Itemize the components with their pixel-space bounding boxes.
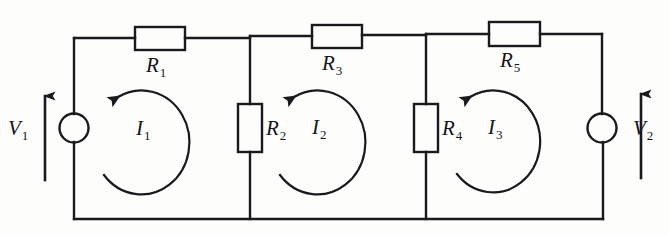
source-label-V2: V2 <box>633 118 653 142</box>
resistor-label-R2: R2 <box>266 118 286 142</box>
resistor-body-R3 <box>312 25 362 48</box>
resistor-label-R5: R5 <box>500 50 520 74</box>
resistor-body-R5 <box>489 22 540 46</box>
resistor-body-R2 <box>238 104 262 152</box>
circuit-schematic-svg <box>0 0 669 235</box>
source-label-V1: V1 <box>8 118 28 142</box>
mesh-current-label-I1: I1 <box>136 118 151 142</box>
source-symbol-V1 <box>60 114 89 143</box>
circuit-diagram-canvas: R1 R2 R3 R4 R5 V1 V2 I1 I2 I3 <box>0 0 669 235</box>
resistor-label-R4: R4 <box>442 118 462 142</box>
mesh-current-label-I3: I3 <box>488 117 503 141</box>
resistor-label-R1: R1 <box>146 55 166 79</box>
mesh-current-label-I2: I2 <box>312 117 327 141</box>
resistor-body-R4 <box>414 104 438 152</box>
mesh-current-loop-I2 <box>280 90 365 194</box>
source-symbol-V2 <box>588 114 617 143</box>
resistor-body-R1 <box>135 27 185 50</box>
resistor-label-R3: R3 <box>322 53 342 77</box>
